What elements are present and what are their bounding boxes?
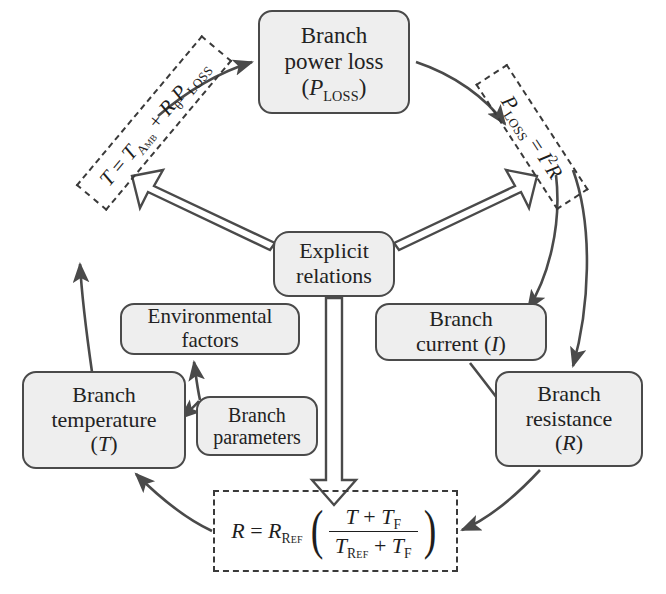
explicit-relations-line2: relations xyxy=(296,264,372,289)
branch-resistance-line2: resistance xyxy=(526,407,613,432)
branch-resistance[interactable]: Branch resistance (R) xyxy=(495,371,643,467)
resistance-fraction: T + TF TRef + TF xyxy=(329,504,418,559)
explicit-relations[interactable]: Explicit relations xyxy=(273,231,395,297)
block-arrow-to-resistance-formula xyxy=(312,298,356,505)
explicit-relations-line1: Explicit xyxy=(296,239,372,264)
fraction-numerator: T + TF xyxy=(339,504,407,531)
environmental-factors-line1: Environmental xyxy=(148,305,273,329)
branch-current-line1: Branch xyxy=(416,307,506,332)
branch-power-loss-symbol: (PLOSS) xyxy=(284,75,383,101)
edge-ploss-formula-to-resistance xyxy=(573,170,587,366)
branch-resistance-symbol: (R) xyxy=(526,431,613,456)
environmental-factors[interactable]: Environmental factors xyxy=(120,303,300,355)
resistance-relation-expression: R = RRef ( T + TF TRef + TF ) xyxy=(231,504,440,559)
branch-current[interactable]: Branch current (I) xyxy=(375,303,547,361)
edge-resistance-to-resistance-formula xyxy=(462,470,540,530)
environmental-factors-line2: factors xyxy=(148,329,273,353)
edge-temperature-to-temp-formula xyxy=(80,264,92,372)
branch-parameters-line2: parameters xyxy=(213,426,301,448)
resistance-relation-lhs: R = RRef xyxy=(231,518,307,544)
branch-temperature-symbol: (T) xyxy=(51,432,156,457)
branch-temperature[interactable]: Branch temperature (T) xyxy=(22,371,186,469)
paren-close: ) xyxy=(423,516,437,546)
branch-temperature-line1: Branch xyxy=(51,383,156,408)
diagram-canvas: Branch power loss (PLOSS) Explicit relat… xyxy=(0,0,666,594)
branch-parameters[interactable]: Branch parameters xyxy=(196,396,318,456)
resistance-relation: R = RRef ( T + TF TRef + TF ) xyxy=(213,490,458,572)
edge-parameters-to-environmental xyxy=(194,362,200,400)
branch-resistance-line1: Branch xyxy=(526,382,613,407)
branch-power-loss-line1: Branch xyxy=(284,23,383,49)
fraction-denominator: TRef + TF xyxy=(329,531,418,559)
paren-open: ( xyxy=(310,516,324,546)
branch-temperature-line2: temperature xyxy=(51,408,156,433)
branch-power-loss[interactable]: Branch power loss (PLOSS) xyxy=(258,10,410,114)
branch-power-loss-line2: power loss xyxy=(284,49,383,75)
block-arrow-to-ploss-formula xyxy=(394,170,537,250)
edge-resistance-formula-to-temperature xyxy=(136,474,212,531)
branch-current-line2: current (I) xyxy=(416,332,506,357)
branch-parameters-line1: Branch xyxy=(213,404,301,426)
block-arrow-to-temp-formula xyxy=(132,170,275,250)
